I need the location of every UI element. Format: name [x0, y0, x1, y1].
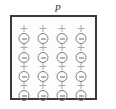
dipole-r2-c1: [16, 44, 32, 64]
dipole-r1-c1: [16, 25, 32, 45]
minus-charge-icon: [60, 76, 65, 77]
negative-charge-circle-icon: [76, 71, 87, 82]
minus-charge-icon: [41, 38, 46, 39]
negative-charge-circle-icon: [57, 90, 68, 101]
plus-charge-icon: [21, 44, 28, 51]
minus-charge-icon: [60, 38, 65, 39]
minus-charge-icon: [41, 76, 46, 77]
negative-charge-circle-icon: [19, 33, 30, 44]
plus-charge-icon: [78, 25, 85, 32]
dipole-r1-c2: [35, 25, 51, 45]
dipole-r2-c4: [73, 44, 89, 64]
negative-charge-circle-icon: [19, 71, 30, 82]
dielectric-slab-box: [10, 15, 97, 100]
dipole-r4-c2: [35, 82, 51, 102]
plus-charge-icon: [40, 25, 47, 32]
plus-charge-icon: [59, 63, 66, 70]
plus-charge-icon: [59, 82, 66, 89]
plus-charge-icon: [40, 44, 47, 51]
plus-charge-icon: [40, 63, 47, 70]
minus-charge-icon: [60, 57, 65, 58]
minus-charge-icon: [79, 76, 84, 77]
minus-charge-icon: [22, 76, 27, 77]
minus-charge-icon: [79, 38, 84, 39]
negative-charge-circle-icon: [38, 33, 49, 44]
negative-charge-circle-icon: [57, 52, 68, 63]
negative-charge-circle-icon: [38, 90, 49, 101]
negative-charge-circle-icon: [57, 71, 68, 82]
minus-charge-icon: [22, 95, 27, 96]
negative-charge-circle-icon: [76, 52, 87, 63]
plus-charge-icon: [59, 44, 66, 51]
minus-charge-icon: [79, 95, 84, 96]
dipole-r3-c1: [16, 63, 32, 83]
minus-charge-icon: [22, 57, 27, 58]
dipole-r4-c1: [16, 82, 32, 102]
minus-charge-icon: [79, 57, 84, 58]
negative-charge-circle-icon: [57, 33, 68, 44]
negative-charge-circle-icon: [38, 52, 49, 63]
minus-charge-icon: [60, 95, 65, 96]
plus-charge-icon: [21, 63, 28, 70]
plus-charge-icon: [40, 82, 47, 89]
minus-charge-icon: [41, 95, 46, 96]
polarized-dielectric-figure: p: [0, 0, 116, 109]
dipole-r1-c3: [54, 25, 70, 45]
dipole-r3-c4: [73, 63, 89, 83]
dipole-r4-c3: [54, 82, 70, 102]
dipole-r4-c4: [73, 82, 89, 102]
negative-charge-circle-icon: [19, 52, 30, 63]
dipole-r3-c2: [35, 63, 51, 83]
minus-charge-icon: [22, 38, 27, 39]
plus-charge-icon: [21, 82, 28, 89]
plus-charge-icon: [78, 82, 85, 89]
negative-charge-circle-icon: [19, 90, 30, 101]
negative-charge-circle-icon: [38, 71, 49, 82]
dipole-r2-c3: [54, 44, 70, 64]
plus-charge-icon: [59, 25, 66, 32]
minus-charge-icon: [41, 57, 46, 58]
plus-charge-icon: [78, 63, 85, 70]
dipole-r2-c2: [35, 44, 51, 64]
dipole-r3-c3: [54, 63, 70, 83]
dipole-grid: [12, 17, 95, 98]
plus-charge-icon: [21, 25, 28, 32]
dipole-r1-c4: [73, 25, 89, 45]
polarization-vector-label: p: [0, 0, 116, 13]
negative-charge-circle-icon: [76, 33, 87, 44]
negative-charge-circle-icon: [76, 90, 87, 101]
plus-charge-icon: [78, 44, 85, 51]
